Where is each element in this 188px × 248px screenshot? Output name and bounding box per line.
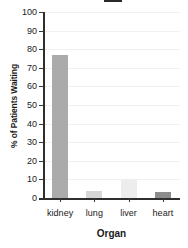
- bar-kidney: [52, 55, 68, 198]
- bar-lung: [86, 191, 102, 198]
- x-tick-label-lung: lung: [86, 208, 103, 218]
- bar-chart-figure: % of Patients Waiting 010203040506070809…: [0, 0, 188, 248]
- x-tick-mark: [163, 198, 164, 202]
- x-tick-label-kidney: kidney: [47, 208, 73, 218]
- y-tick-label: 10: [3, 175, 37, 184]
- gridline: [43, 31, 180, 32]
- x-tick-mark: [94, 198, 95, 202]
- y-tick-label: 100: [3, 8, 37, 17]
- y-tick-label: 90: [3, 27, 37, 36]
- y-tick-label: 60: [3, 82, 37, 91]
- cropped-chart-title: [104, 0, 122, 2]
- x-tick-label-heart: heart: [153, 208, 174, 218]
- y-tick-label: 30: [3, 138, 37, 147]
- plot-area: 0102030405060708090100 kidneylungliverhe…: [43, 12, 180, 198]
- y-axis-line: [43, 12, 45, 198]
- y-tick-label: 80: [3, 45, 37, 54]
- y-tick-label: 20: [3, 157, 37, 166]
- y-tick-label: 70: [3, 64, 37, 73]
- x-tick-label-liver: liver: [120, 208, 137, 218]
- y-tick-label: 40: [3, 120, 37, 129]
- gridline: [43, 49, 180, 50]
- x-tick-mark: [129, 198, 130, 202]
- bar-liver: [121, 179, 137, 198]
- y-tick-label: 0: [3, 194, 37, 203]
- x-axis-title: Organ: [43, 228, 180, 239]
- y-tick-label: 50: [3, 101, 37, 110]
- gridline: [43, 12, 180, 13]
- x-tick-mark: [60, 198, 61, 202]
